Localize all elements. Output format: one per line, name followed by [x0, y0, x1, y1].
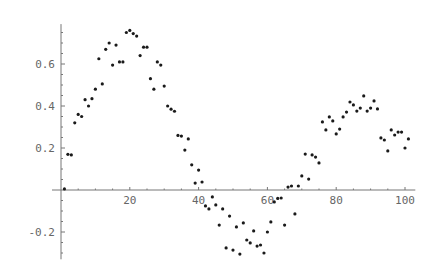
data-point	[180, 134, 183, 137]
data-point	[63, 187, 66, 190]
data-point	[145, 46, 148, 49]
data-point	[221, 207, 224, 210]
data-point	[204, 204, 207, 207]
x-tick-label: 40	[192, 194, 205, 207]
data-point	[372, 99, 375, 102]
data-point	[197, 168, 200, 171]
data-point	[314, 155, 317, 158]
x-tick-label: 20	[123, 194, 136, 207]
data-point	[249, 241, 252, 244]
data-point	[187, 137, 190, 140]
axes	[52, 24, 415, 259]
data-point	[190, 163, 193, 166]
data-point	[369, 107, 372, 110]
data-point	[242, 221, 245, 224]
data-point	[335, 132, 338, 135]
data-point	[149, 77, 152, 80]
data-point	[286, 185, 289, 188]
x-tick-label: 100	[395, 194, 415, 207]
data-point	[366, 109, 369, 112]
data-point	[66, 153, 69, 156]
data-point	[276, 197, 279, 200]
data-point	[252, 229, 255, 232]
y-tick-label: 0.4	[35, 100, 55, 113]
data-point	[280, 196, 283, 199]
data-point	[255, 244, 258, 247]
data-point	[304, 152, 307, 155]
data-point	[383, 138, 386, 141]
data-point	[121, 60, 124, 63]
scatter-plot: 20406080100-0.20.20.40.6	[0, 0, 436, 278]
data-point	[317, 161, 320, 164]
data-point	[218, 223, 221, 226]
data-point	[135, 34, 138, 37]
data-point	[163, 84, 166, 87]
data-point	[159, 63, 162, 66]
x-tick-label: 60	[261, 194, 274, 207]
data-point	[132, 32, 135, 35]
data-point	[386, 149, 389, 152]
data-point	[108, 41, 111, 44]
data-point	[228, 214, 231, 217]
data-point	[400, 130, 403, 133]
data-point	[235, 225, 238, 228]
data-point	[80, 115, 83, 118]
data-point	[231, 248, 234, 251]
data-point	[238, 252, 241, 255]
data-point	[269, 220, 272, 223]
data-point	[397, 130, 400, 133]
y-tick-label: 0.6	[35, 58, 55, 71]
data-point	[359, 107, 362, 110]
data-point	[393, 133, 396, 136]
data-point	[403, 146, 406, 149]
data-point	[152, 88, 155, 91]
data-point	[297, 184, 300, 187]
data-point	[94, 88, 97, 91]
data-point	[114, 44, 117, 47]
data-point	[290, 184, 293, 187]
data-point	[101, 82, 104, 85]
data-point	[407, 137, 410, 140]
data-point	[355, 109, 358, 112]
data-point	[77, 113, 80, 116]
data-point	[87, 104, 90, 107]
data-point	[311, 153, 314, 156]
data-point	[362, 94, 365, 97]
data-point	[262, 251, 265, 254]
data-point	[245, 238, 248, 241]
data-point	[183, 149, 186, 152]
data-point	[352, 103, 355, 106]
data-point	[90, 97, 93, 100]
data-point	[156, 60, 159, 63]
data-point	[83, 98, 86, 101]
data-point	[293, 212, 296, 215]
data-point	[97, 57, 100, 60]
data-point	[328, 115, 331, 118]
data-point	[207, 207, 210, 210]
data-point	[125, 31, 128, 34]
data-point	[259, 243, 262, 246]
data-point	[266, 230, 269, 233]
x-tick-label: 80	[330, 194, 343, 207]
data-point	[111, 63, 114, 66]
data-point	[376, 107, 379, 110]
data-point	[390, 128, 393, 131]
data-point	[283, 223, 286, 226]
data-point	[118, 60, 121, 63]
data-point	[128, 29, 131, 32]
data-point	[348, 100, 351, 103]
data-point	[104, 48, 107, 51]
data-point	[345, 110, 348, 113]
data-point	[200, 180, 203, 183]
data-point	[166, 104, 169, 107]
data-point	[194, 181, 197, 184]
data-point	[139, 54, 142, 57]
data-point	[331, 119, 334, 122]
data-point	[273, 200, 276, 203]
data-point	[70, 153, 73, 156]
data-points	[63, 29, 410, 256]
data-point	[379, 136, 382, 139]
tick-labels: 20406080100-0.20.20.40.6	[29, 58, 415, 239]
data-point	[321, 120, 324, 123]
data-point	[307, 177, 310, 180]
